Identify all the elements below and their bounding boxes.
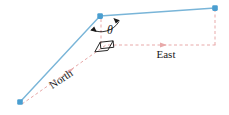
east-reference-line	[108, 43, 216, 48]
theta-label: θ	[107, 23, 113, 37]
diagram-canvas: θ North East	[0, 0, 229, 115]
right-angle-square	[100, 41, 114, 49]
vertex-point-node	[97, 13, 103, 19]
east-reference-arrowhead	[160, 43, 167, 48]
theta-arc-group	[90, 18, 120, 32]
north-leg-vector	[20, 16, 100, 102]
origin-point-node	[17, 99, 23, 105]
end-point-node	[212, 5, 218, 11]
theta-arc-arrowhead-north	[90, 27, 97, 32]
east-leg-vector	[100, 8, 215, 16]
vector-angle-diagram: θ North East	[0, 0, 229, 115]
theta-arc-arrowhead-east	[113, 18, 119, 24]
east-label: East	[157, 48, 176, 60]
